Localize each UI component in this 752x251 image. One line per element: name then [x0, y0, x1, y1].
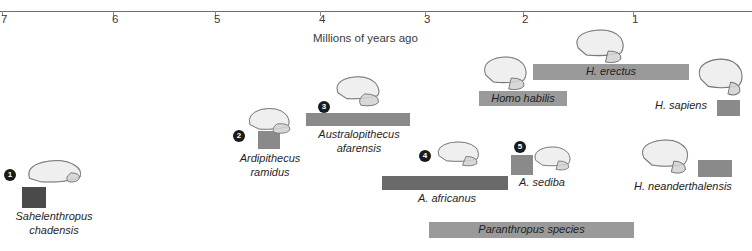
skull-icon-afarensis	[331, 74, 389, 110]
skull-icon-erectus	[570, 28, 630, 66]
axis-tick-label-4: 4	[319, 13, 326, 25]
specimen-caption-5: A. sediba	[504, 176, 580, 190]
range-bar-h-sapiens	[717, 100, 740, 116]
taxon-label-h-neanderthalensis: H. neanderthalensis	[634, 180, 732, 193]
taxon-label-h-sapiens: H. sapiens	[655, 99, 707, 112]
specimen-caption-4: A. africanus	[392, 192, 502, 206]
specimen-caption-1: Sahelenthropuschadensis	[0, 210, 108, 238]
skull-icon-sediba	[530, 145, 582, 177]
skull-icon-ardipithecus	[244, 105, 300, 139]
specimen-name-line1: Australopithecus	[304, 128, 414, 142]
skull-icon-sapiens	[694, 58, 750, 98]
specimen-name-line1: Sahelenthropus	[0, 210, 108, 224]
skull-icon-habilis	[479, 55, 535, 93]
axis-tick-label-2: 2	[522, 13, 529, 25]
skull-icon-neanderthalensis	[637, 138, 695, 176]
axis-tick-label-1: 1	[632, 13, 639, 25]
axis-caption: Millions of years ago	[313, 32, 418, 44]
specimen-badge-2: 2	[233, 130, 245, 142]
specimen-name-line1: Ardipithecus	[224, 152, 316, 166]
range-bar-h-neanderthalensis	[698, 160, 732, 177]
axis-tick-label-6: 6	[112, 13, 119, 25]
range-bar-4	[382, 176, 508, 190]
axis-tick-label-3: 3	[424, 13, 431, 25]
specimen-caption-3: Australopithecusafarensis	[304, 128, 414, 156]
range-bar-3	[306, 113, 410, 126]
specimen-badge-3: 3	[318, 101, 330, 113]
specimen-name-line1: A. sediba	[504, 176, 580, 190]
specimen-name-line2: afarensis	[304, 142, 414, 156]
skull-icon-africanus	[432, 140, 488, 173]
skull-icon-sahelanthropus	[22, 155, 84, 189]
specimen-name-line1: A. africanus	[392, 192, 502, 206]
hominin-timeline-chart: 7654321 Millions of years ago 1Sahelenth…	[0, 0, 752, 251]
specimen-caption-2: Ardipithecusramidus	[224, 152, 316, 180]
specimen-badge-4: 4	[419, 150, 431, 162]
specimen-name-line2: chadensis	[0, 224, 108, 238]
range-bar-h-erectus: H. erectus	[533, 64, 689, 80]
specimen-badge-1: 1	[4, 169, 16, 181]
axis-tick-label-5: 5	[214, 13, 221, 25]
range-bar-homo-habilis: Homo habilis	[479, 91, 567, 106]
specimen-badge-5: 5	[514, 141, 526, 153]
range-bar-paranthropus-species: Paranthropus species	[429, 222, 634, 238]
specimen-name-line2: ramidus	[224, 166, 316, 180]
axis-tick-label-7: 7	[1, 13, 8, 25]
range-bar-1	[22, 187, 46, 208]
